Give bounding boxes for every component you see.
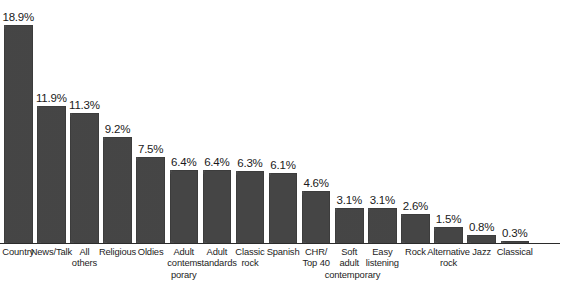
bar[interactable] xyxy=(136,157,165,244)
bar-value-label: 3.1% xyxy=(337,194,362,206)
bar[interactable] xyxy=(4,25,33,244)
bar[interactable] xyxy=(335,208,364,244)
category-label-line: rock xyxy=(225,257,274,268)
bar-group: 1.5% xyxy=(434,0,463,244)
bar-group: 11.3% xyxy=(70,0,99,244)
bar-group: 0.3% xyxy=(501,0,530,244)
bar-group: 4.6% xyxy=(302,0,331,244)
bar-value-label: 0.8% xyxy=(469,221,494,233)
bar[interactable] xyxy=(70,113,99,244)
bar-group: 18.9% xyxy=(4,0,33,244)
bar-group: 6.4% xyxy=(170,0,199,244)
bar-group: 3.1% xyxy=(335,0,364,244)
bar-group: 3.1% xyxy=(368,0,397,244)
category-label-line: porary xyxy=(159,269,208,280)
bar[interactable] xyxy=(434,227,463,244)
bar[interactable] xyxy=(302,191,331,244)
bar[interactable] xyxy=(236,171,265,244)
bar-group: 7.5% xyxy=(136,0,165,244)
bar-group: 6.1% xyxy=(269,0,298,244)
x-axis-line xyxy=(0,243,560,244)
bar[interactable] xyxy=(170,170,199,244)
category-label-line: listening xyxy=(358,257,407,268)
bar-value-label: 9.2% xyxy=(105,123,130,135)
bar-value-label: 18.9% xyxy=(2,11,34,23)
bar[interactable] xyxy=(368,208,397,244)
bar-group: 11.9% xyxy=(37,0,66,244)
bar-value-label: 6.1% xyxy=(270,159,295,171)
bar-value-label: 4.6% xyxy=(303,177,328,189)
bar-group: 6.3% xyxy=(236,0,265,244)
category-label-line: contemporary xyxy=(325,269,374,280)
bar[interactable] xyxy=(203,170,232,244)
bar-value-label: 6.3% xyxy=(237,157,262,169)
plot-area: 18.9%11.9%11.3%9.2%7.5%6.4%6.4%6.3%6.1%4… xyxy=(0,0,569,244)
category-label-line: rock xyxy=(424,257,473,268)
bar-value-label: 11.9% xyxy=(36,92,67,104)
bar-value-label: 3.1% xyxy=(370,194,395,206)
bar-chart: 18.9%11.9%11.3%9.2%7.5%6.4%6.4%6.3%6.1%4… xyxy=(0,0,569,289)
category-labels: CountryNews/TalkAllothersReligiousOldies… xyxy=(0,246,569,289)
bar[interactable] xyxy=(401,214,430,244)
bar-value-label: 11.3% xyxy=(69,99,100,111)
bar[interactable] xyxy=(269,173,298,244)
bar-value-label: 6.4% xyxy=(204,156,229,168)
bar-value-label: 0.3% xyxy=(502,227,527,239)
bar[interactable] xyxy=(103,137,132,244)
bar-value-label: 6.4% xyxy=(171,156,196,168)
bar-value-label: 7.5% xyxy=(138,143,163,155)
bars-layer: 18.9%11.9%11.3%9.2%7.5%6.4%6.4%6.3%6.1%4… xyxy=(0,0,569,244)
bar-value-label: 1.5% xyxy=(436,213,461,225)
bar[interactable] xyxy=(37,106,66,244)
bar-group: 0.8% xyxy=(467,0,496,244)
bar-group: 6.4% xyxy=(203,0,232,244)
category-label-line: others xyxy=(60,257,109,268)
bar-value-label: 2.6% xyxy=(403,200,428,212)
category-label-line: Classical xyxy=(490,246,539,257)
bar-group: 9.2% xyxy=(103,0,132,244)
bar-group: 2.6% xyxy=(401,0,430,244)
category-label: Classical xyxy=(490,246,539,257)
